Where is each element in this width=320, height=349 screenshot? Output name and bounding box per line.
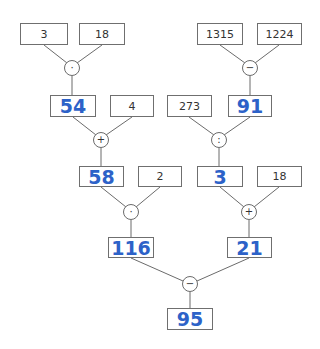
answer-text: 54 (60, 95, 86, 117)
answer-box[interactable]: 116 (108, 237, 154, 258)
given-value-box: 1224 (257, 23, 302, 45)
operator-symbol: + (245, 207, 253, 217)
given-value-box: 18 (79, 23, 125, 45)
given-value-box: 2 (138, 166, 182, 187)
value-text: 2 (157, 170, 164, 183)
plus-operator-icon: + (93, 132, 109, 148)
operator-symbol: − (246, 63, 254, 73)
answer-box[interactable]: 3 (197, 166, 243, 187)
given-value-box: 273 (167, 95, 212, 117)
operator-symbol: + (97, 135, 105, 145)
value-text: 4 (129, 100, 136, 113)
answer-text: 21 (236, 237, 262, 259)
value-text: 18 (273, 170, 287, 183)
given-value-box: 18 (257, 166, 302, 187)
given-value-box: 4 (110, 95, 154, 117)
given-value-box: 1315 (197, 23, 243, 45)
answer-text: 58 (88, 166, 114, 188)
operator-symbol: · (129, 207, 132, 217)
operator-symbol: · (70, 63, 73, 73)
final-answer-box[interactable]: 95 (167, 308, 213, 330)
answer-text: 116 (111, 237, 151, 259)
minus-operator-icon: − (242, 60, 258, 76)
value-text: 1224 (266, 28, 294, 41)
value-text: 1315 (206, 28, 234, 41)
answer-box[interactable]: 91 (228, 95, 272, 117)
value-text: 18 (95, 28, 109, 41)
answer-text: 91 (237, 95, 263, 117)
answer-box[interactable]: 54 (50, 95, 96, 117)
given-value-box: 3 (20, 23, 68, 45)
operator-symbol: − (186, 279, 194, 289)
answer-box[interactable]: 58 (79, 166, 124, 187)
answer-box[interactable]: 21 (227, 237, 272, 258)
minus-operator-icon: − (182, 276, 198, 292)
value-text: 3 (41, 28, 48, 41)
answer-text: 95 (177, 308, 203, 330)
answer-text: 3 (213, 166, 226, 188)
multiply-operator-icon: · (123, 204, 139, 220)
operator-symbol: : (217, 135, 220, 145)
value-text: 273 (179, 100, 200, 113)
plus-operator-icon: + (241, 204, 257, 220)
divide-operator-icon: : (211, 132, 227, 148)
multiply-operator-icon: · (64, 60, 80, 76)
arithmetic-tree-diagram: 3 18 · 54 4 + 58 2 · 116 1315 1224 − 91 … (0, 0, 320, 349)
